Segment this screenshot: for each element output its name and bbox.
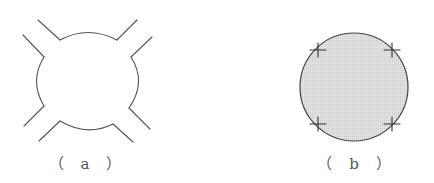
figure-a-lead-top-left-2 (23, 35, 44, 57)
figure-a-lead-bottom-left-2 (39, 121, 60, 141)
figure-a-lead-bottom-right-2 (113, 124, 133, 142)
figure-a-left-arc (37, 57, 45, 106)
figure-a-lead-bottom-right-1 (129, 108, 150, 129)
figure-a-notched-circle (23, 20, 152, 142)
figure-b-shaded-circle (300, 33, 408, 141)
figure-a-bottom-arc (60, 121, 113, 130)
figure-a-caption: （ a ） (49, 152, 127, 173)
figure-a-top-arc (60, 33, 117, 41)
figure-a-lead-top-left-1 (38, 20, 60, 40)
figure-a-lead-top-right-1 (117, 20, 137, 40)
figure-b-caption: （ b ） (317, 152, 396, 173)
figure-a-lead-bottom-left-1 (24, 106, 44, 126)
figure-a-right-arc (129, 57, 139, 108)
figure-a-lead-top-right-2 (131, 37, 152, 57)
